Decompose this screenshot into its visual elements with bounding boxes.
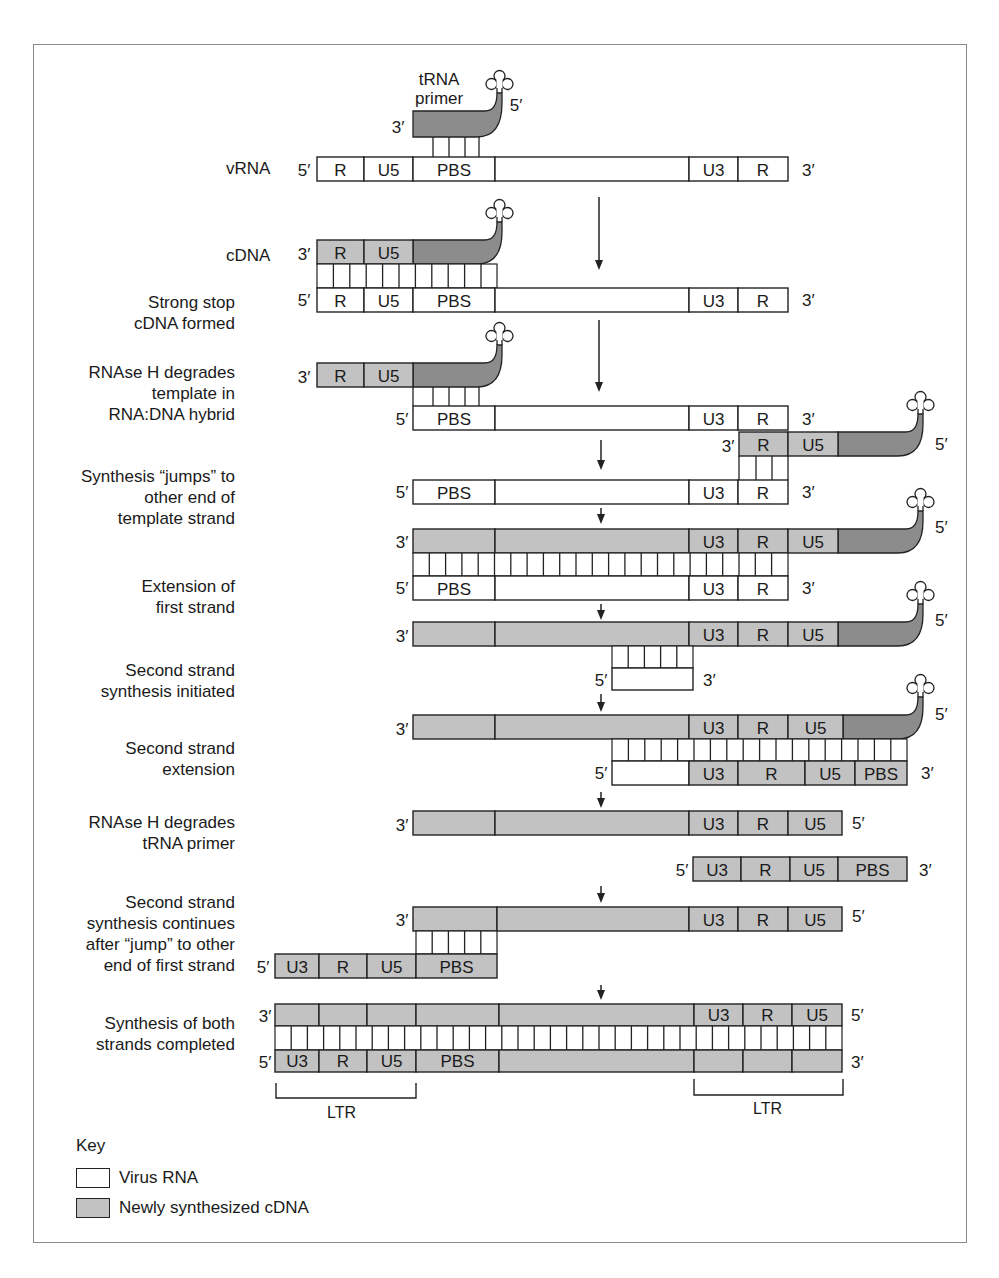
trna-loop-center: [918, 591, 924, 599]
cdna-first-strand-segment: [495, 811, 689, 835]
step-label-jump: Synthesis “jumps” to other end of templa…: [81, 466, 235, 529]
prime-label: 3′: [396, 627, 409, 646]
segment-label-u3: U3: [286, 1052, 308, 1071]
prime-label: 3′: [921, 764, 934, 783]
vrna-segment: [495, 157, 689, 181]
segment-label-u5: U5: [805, 719, 827, 738]
segment-label-u3: U3: [703, 292, 725, 311]
prime-label: 3′: [396, 533, 409, 552]
segment-label-u5: U5: [802, 436, 824, 455]
cdna-first-strand-segment: [495, 622, 689, 646]
segment-label-r: R: [337, 958, 349, 977]
cdna-first-strand-segment: [413, 622, 495, 646]
prime-label: 3′: [802, 483, 815, 502]
ltr-label-left: LTR: [327, 1104, 356, 1122]
arrow-head-icon: [595, 260, 603, 270]
segment-label-r: R: [757, 626, 769, 645]
prime-label: 3′: [851, 1053, 864, 1072]
segment-label-pbs: PBS: [855, 861, 889, 880]
trna-loop-center: [497, 332, 503, 340]
cdna-first-strand-segment: [495, 529, 689, 553]
cdna-first-strand-segment: [495, 715, 689, 739]
trna-loop-left: [907, 497, 918, 508]
prime-label: 3′: [919, 861, 932, 880]
prime-label: 3′: [298, 368, 311, 387]
segment-label-u5: U5: [378, 292, 400, 311]
prime-label: 5′: [257, 958, 270, 977]
trna-loop-left: [486, 79, 497, 90]
prime-label: 5′: [396, 579, 409, 598]
second-strand-segment: [612, 761, 689, 785]
prime-label: 5′: [935, 518, 948, 537]
prime-label: 5′: [298, 291, 311, 310]
segment-label-r: R: [757, 410, 769, 429]
trna-primer-row3: [413, 345, 502, 387]
ladder-row10: [416, 931, 497, 954]
segment-label-r: R: [761, 1006, 773, 1025]
trna-loop-right: [502, 79, 513, 90]
segment-label-u3: U3: [703, 815, 725, 834]
prime-label: 3′: [396, 911, 409, 930]
step-label-rnase-h-trna: RNAse H degrades tRNA primer: [89, 812, 235, 854]
arrow-head-icon: [597, 702, 605, 712]
segment-label-u3: U3: [706, 861, 728, 880]
ltr-bracket-right: [694, 1079, 843, 1095]
ltr-label-right: LTR: [753, 1100, 782, 1118]
prime-label: 5′: [852, 907, 865, 926]
prime-label: 5′: [595, 764, 608, 783]
trna-primer-row2: [413, 222, 502, 264]
prime-label: 3′: [802, 161, 815, 180]
segment-label-u3: U3: [703, 719, 725, 738]
segment-label-r: R: [757, 436, 769, 455]
segment-label-u5: U5: [381, 1052, 403, 1071]
segment-label-u5: U5: [803, 861, 825, 880]
rna-template-segment: [495, 480, 689, 504]
key-title: Key: [76, 1136, 105, 1156]
trna-loop-left: [907, 400, 918, 411]
trna-loop-right: [923, 590, 934, 601]
arrow-head-icon: [597, 460, 605, 470]
segment-label-r: R: [765, 765, 777, 784]
prime-label: 5′: [259, 1053, 272, 1072]
prime-label: 3′: [722, 437, 735, 456]
trna-loop-center: [497, 209, 503, 217]
segment-label-r: R: [759, 861, 771, 880]
segment-label-u3: U3: [703, 484, 725, 503]
segment-label-u5: U5: [381, 958, 403, 977]
prime-label: 3′: [802, 291, 815, 310]
step-label-both-completed: Synthesis of both strands completed: [96, 1013, 235, 1055]
arrow-head-icon: [597, 990, 605, 1000]
segment-label-r: R: [334, 161, 346, 180]
segment-label-r: R: [757, 533, 769, 552]
prime-label: 3′: [802, 410, 815, 429]
segment-label-u5: U5: [378, 367, 400, 386]
prime-label: 5′: [935, 435, 948, 454]
segment-label-u3: U3: [286, 958, 308, 977]
prime-label: 5′: [396, 483, 409, 502]
swatch-cdna: [76, 1198, 110, 1218]
arrow-head-icon: [597, 514, 605, 524]
trna-loop-right: [923, 400, 934, 411]
trna-primer-jump: [838, 414, 923, 456]
prime-label: 5′: [510, 96, 523, 115]
prime-label: 5′: [298, 161, 311, 180]
segment-label-u3: U3: [703, 765, 725, 784]
segment-label-r: R: [334, 292, 346, 311]
segment-label-r: R: [757, 580, 769, 599]
first-strand-final-segment: [319, 1004, 367, 1026]
trna-loop-center: [497, 80, 503, 88]
ladder-final: [275, 1026, 842, 1050]
second-strand-final-segment: [499, 1050, 694, 1072]
cdna-first-strand-segment: [413, 715, 495, 739]
segment-label-u5: U5: [378, 244, 400, 263]
cdna-label: cDNA: [226, 246, 270, 266]
prime-label: 5′: [851, 1006, 864, 1025]
segment-label-pbs: PBS: [437, 410, 471, 429]
second-strand-final-segment: [792, 1050, 842, 1072]
second-strand-final-segment: [743, 1050, 792, 1072]
segment-label-u3: U3: [703, 533, 725, 552]
segment-label-r: R: [337, 1052, 349, 1071]
segment-label-r: R: [757, 161, 769, 180]
rna-template-segment: [495, 576, 689, 600]
prime-label: 5′: [676, 861, 689, 880]
